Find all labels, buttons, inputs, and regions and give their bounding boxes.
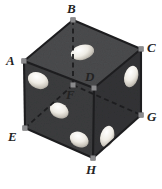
- vertex-marker-A: [22, 59, 27, 64]
- vertex-label-A: A: [6, 54, 15, 67]
- vertex-label-G: G: [147, 110, 156, 123]
- vertex-marker-G: [139, 113, 144, 118]
- cube-figure: ABCDEFGH: [0, 0, 162, 189]
- vertex-label-B: B: [67, 2, 76, 15]
- vertex-label-C: C: [147, 41, 156, 54]
- vertex-label-E: E: [8, 130, 17, 143]
- cube-svg: [0, 0, 162, 189]
- vertex-marker-D: [92, 86, 97, 91]
- vertex-marker-B: [71, 18, 76, 23]
- cube-edge-A-E: [24, 61, 25, 128]
- vertex-label-D: D: [85, 70, 94, 83]
- vertex-label-H: H: [86, 163, 96, 176]
- vertex-label-F: F: [66, 88, 75, 101]
- cube-edge-D-H: [93, 88, 94, 158]
- vertex-marker-E: [23, 126, 28, 131]
- vertex-marker-H: [91, 156, 96, 161]
- vertex-marker-C: [139, 47, 144, 52]
